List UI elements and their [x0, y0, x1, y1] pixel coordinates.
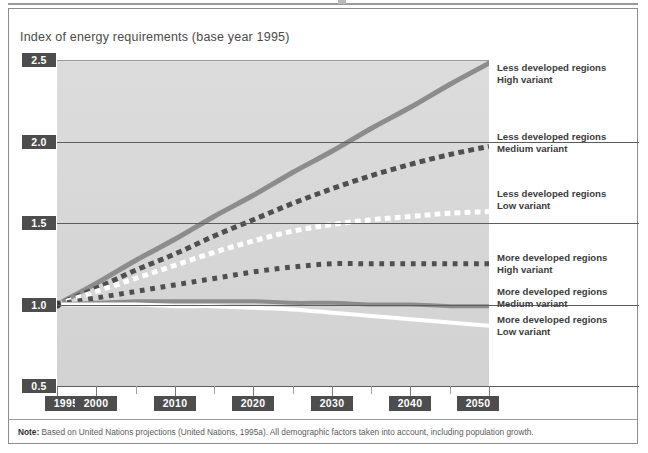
legend-label-variant: Low variant	[497, 326, 607, 338]
legend-entry-ldr-low: Less developed regionsLow variant	[497, 188, 606, 211]
legend-label-region: More developed regions	[497, 286, 607, 298]
y-axis-label-2-5: 2.5	[22, 53, 56, 67]
page-top-mark	[338, 0, 346, 4]
legend-label-variant: Low variant	[497, 200, 606, 212]
legend-entry-mdr-medium: More developed regionsMedium variant	[497, 286, 607, 309]
legend-entry-ldr-medium: Less developed regionsMedium variant	[497, 131, 606, 154]
legend-label-region: Less developed regions	[497, 188, 606, 200]
x-tick-minor-2025	[293, 386, 294, 394]
x-axis-label-2040: 2040	[389, 396, 431, 411]
x-axis-label-2050: 2050	[457, 396, 499, 411]
footnote-divider	[9, 419, 637, 420]
legend-label-region: Less developed regions	[497, 62, 606, 74]
series-line-mdr-low	[57, 304, 489, 325]
gridline-2-5	[57, 60, 489, 61]
series-line-ldr-medium	[57, 146, 489, 304]
chart-title: Index of energy requirements (base year …	[20, 30, 290, 44]
legend-label-variant: High variant	[497, 74, 606, 86]
x-axis-label-2010: 2010	[154, 396, 196, 411]
x-axis-label-2020: 2020	[232, 396, 274, 411]
x-axis-label-2000: 2000	[75, 396, 117, 411]
legend-label-region: Less developed regions	[497, 131, 606, 143]
x-tick-minor-2045	[450, 386, 451, 394]
x-tick-minor-2035	[371, 386, 372, 394]
legend-entry-ldr-high: Less developed regionsHigh variant	[497, 62, 606, 85]
y-axis-label-2-0: 2.0	[22, 135, 56, 149]
legend-label-region: More developed regions	[497, 252, 607, 264]
x-tick-minor-2005	[136, 386, 137, 394]
footnote-label: Note:	[18, 427, 39, 437]
series-line-ldr-high	[57, 63, 489, 304]
y-axis-label-0-5: 0.5	[22, 379, 56, 393]
legend-entry-mdr-low: More developed regionsLow variant	[497, 314, 607, 337]
legend-label-region: More developed regions	[497, 314, 607, 326]
figure-footnote: Note: Based on United Nations projection…	[18, 427, 618, 438]
gridline-0-5	[57, 386, 639, 387]
series-line-ldr-low	[57, 212, 489, 305]
legend-entry-mdr-high: More developed regionsHigh variant	[497, 252, 607, 275]
x-axis-label-2030: 2030	[311, 396, 353, 411]
legend-label-variant: Medium variant	[497, 143, 606, 155]
y-axis-label-1-0: 1.0	[22, 298, 56, 312]
x-tick-minor-2015	[214, 386, 215, 394]
gridline-1-5	[57, 223, 639, 224]
footnote-text: Based on United Nations projections (Uni…	[39, 427, 533, 437]
page-top-rule	[8, 3, 638, 5]
y-axis-label-1-5: 1.5	[22, 216, 56, 230]
legend-label-variant: Medium variant	[497, 298, 607, 310]
legend-label-variant: High variant	[497, 264, 607, 276]
